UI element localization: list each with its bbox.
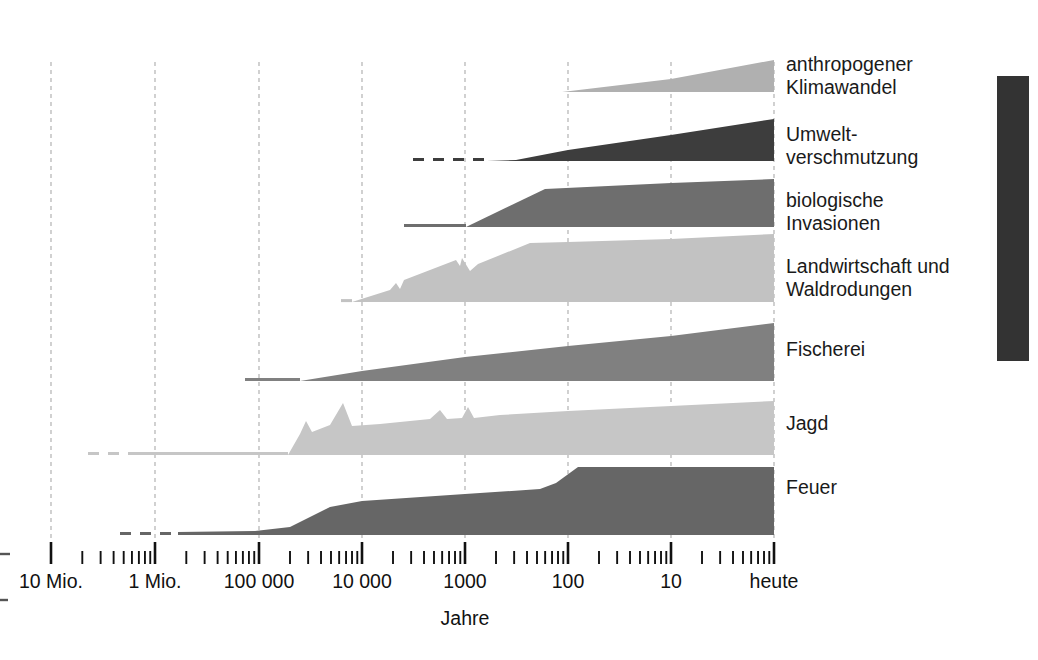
series-label-1-line-1: verschmutzung — [786, 146, 918, 168]
series-label-4: Fischerei — [786, 338, 865, 360]
tick-label-1: 1 Mio. — [128, 570, 181, 592]
axis-title: Jahre — [441, 607, 490, 629]
tick-label-7: heute — [750, 570, 799, 592]
tick-label-0: 10 Mio. — [19, 570, 83, 592]
series-label-0-line-0: anthropogener — [786, 53, 913, 75]
chart-figure: 10 Mio.1 Mio.100 00010 000100010010heute… — [0, 0, 1038, 660]
tick-label-6: 10 — [660, 570, 682, 592]
series-label-6: Feuer — [786, 476, 837, 498]
series-label-2-line-0: biologische — [786, 189, 884, 211]
series-label-2-line-1: Invasionen — [786, 212, 880, 234]
series-label-0-line-1: Klimawandel — [786, 76, 897, 98]
tick-label-4: 1000 — [443, 570, 487, 592]
series-label-3-line-1: Waldrodungen — [786, 278, 912, 300]
human-impact-timeline-chart: 10 Mio.1 Mio.100 00010 000100010010heute… — [0, 0, 1038, 660]
series-label-3-line-0: Landwirtschaft und — [786, 255, 950, 277]
series-label-5: Jagd — [786, 412, 828, 434]
tick-label-3: 10 000 — [332, 570, 392, 592]
series-label-1-line-0: Umwelt- — [786, 123, 858, 145]
right-margin-bar — [997, 76, 1029, 361]
tick-label-5: 100 — [552, 570, 585, 592]
tick-label-2: 100 000 — [224, 570, 295, 592]
